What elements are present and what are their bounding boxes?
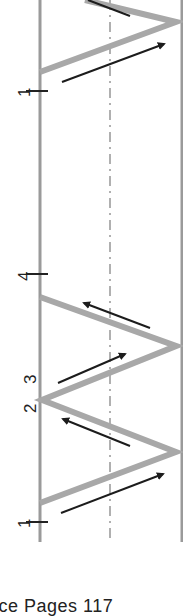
page-footer-text: ice Pages 117 [0,596,113,616]
direction-arrow-icon [62,44,164,82]
zigzag-path-middle [40,297,176,503]
point-label-2: 2 [21,404,40,413]
zigzag-path-diagram: 1 4 3 2 1 [0,0,183,616]
point-label-4: 4 [15,272,34,281]
point-label-1-bottom: 1 [15,519,34,528]
point-label-3: 3 [21,375,40,384]
zigzag-path-top [40,0,176,72]
point-label-1-top: 1 [15,88,34,97]
direction-arrow-icon [61,474,163,513]
